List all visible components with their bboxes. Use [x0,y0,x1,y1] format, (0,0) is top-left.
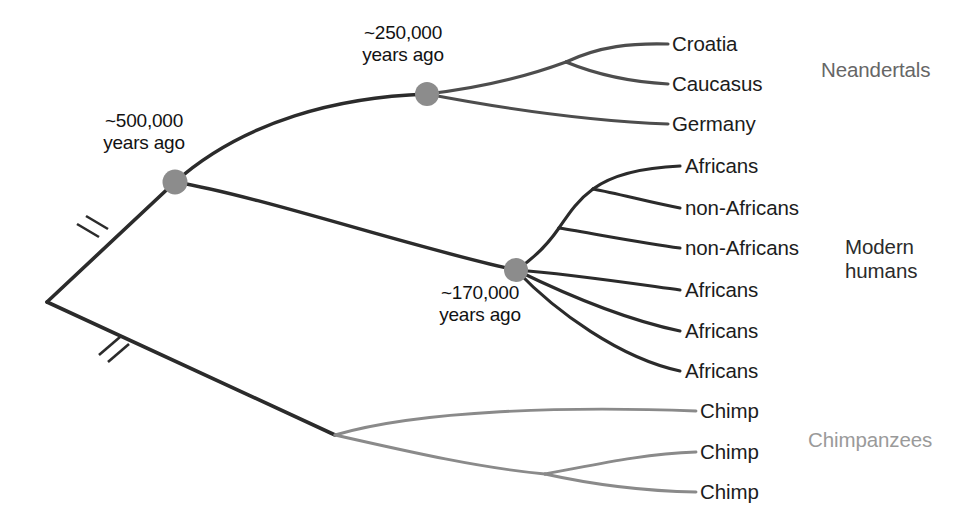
dated-node-markers [163,82,529,282]
tip-label-africans-1: Africans [685,156,758,177]
branch-chimp-inner-stem [335,435,545,474]
phylogenetic-tree-figure: ~500,000 years ago ~250,000 years ago ~1… [0,0,970,529]
branch-tip-non-africans-1 [593,189,680,208]
branch-tip-non-africans-2 [559,228,680,248]
modern-human-branches [516,166,680,371]
branch-to-modern-human-mrca [175,182,516,270]
group-label-modern-humans-line1: Modern [845,235,917,259]
branch-tip-croatia [566,44,668,62]
tip-label-africans-2: Africans [685,280,758,301]
branch-tip-chimp-2 [545,452,696,474]
branch-tip-caucasus [566,62,668,84]
branch-tip-chimp-1 [335,409,696,435]
hominin-branches [175,94,516,270]
branch-tip-africans-1 [593,166,680,189]
tip-label-chimp-2: Chimp [700,442,759,463]
node-marker-500k [163,170,188,195]
age-250k-line1: ~250,000 [341,22,465,44]
branch-tip-chimp-3 [545,474,696,492]
group-label-modern-humans-line2: humans [845,259,917,283]
group-label-modern-humans: Modern humans [845,235,917,283]
tip-label-africans-3: Africans [685,321,758,342]
age-170k-line1: ~170,000 [418,282,542,304]
chimpanzee-branches [335,409,696,492]
age-annotation-250k: ~250,000 years ago [341,22,465,67]
age-170k-line2: years ago [418,304,542,326]
branch-root-to-chimp [47,302,335,435]
branch-to-neandertal-mrca [175,94,427,182]
tip-label-non-africans-2: non-Africans [685,238,799,259]
branch-break-marks [84,220,122,350]
tip-label-africans-4: Africans [685,361,758,382]
age-annotation-500k: ~500,000 years ago [82,110,206,155]
tip-label-caucasus: Caucasus [672,74,762,95]
age-500k-line2: years ago [82,132,206,154]
node-marker-170k [504,258,528,282]
group-label-neandertals: Neandertals [821,58,930,82]
branch-tip-germany [427,94,668,124]
tip-label-germany: Germany [672,114,756,135]
tip-label-chimp-1: Chimp [700,401,759,422]
tip-label-non-africans-1: non-Africans [685,198,799,219]
group-label-chimpanzees: Chimpanzees [808,428,932,452]
tip-label-chimp-3: Chimp [700,482,759,503]
group-label-chimpanzees-line1: Chimpanzees [808,428,932,452]
branch-mh-upper2-stem [559,189,593,228]
group-label-neandertals-line1: Neandertals [821,58,930,82]
age-annotation-170k: ~170,000 years ago [418,282,542,327]
age-250k-line2: years ago [341,44,465,66]
age-500k-line1: ~500,000 [82,110,206,132]
branch-root-to-hominin [47,182,175,302]
node-marker-250k [415,82,439,106]
tip-label-croatia: Croatia [672,34,737,55]
